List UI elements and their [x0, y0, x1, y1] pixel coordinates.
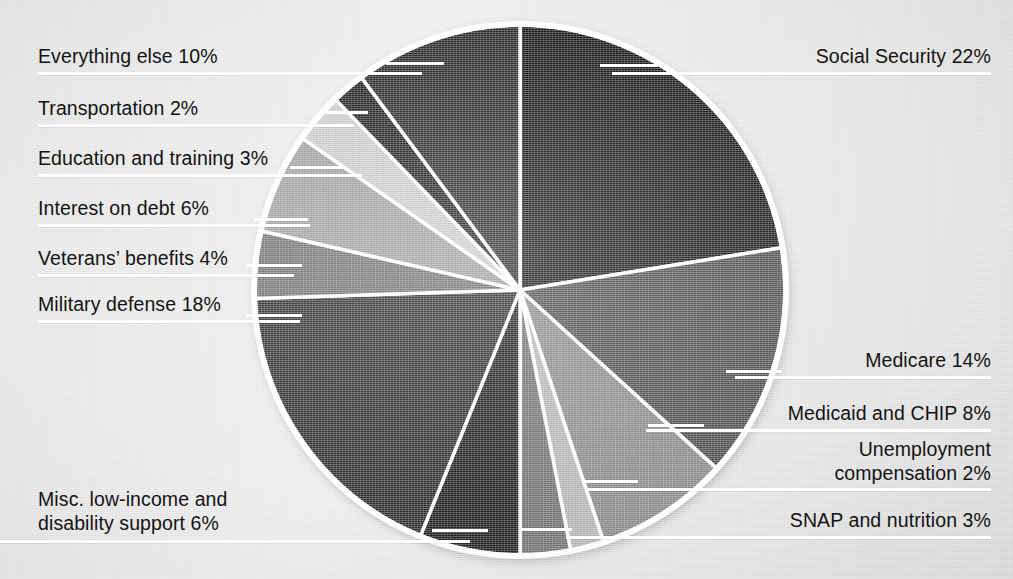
- label-misc-low-income-and-disability-support: Misc. low-income and disability support …: [38, 487, 227, 535]
- label-medicare: Medicare 14%: [571, 348, 991, 372]
- tick-social-security: [600, 64, 658, 67]
- tick-medicaid: [648, 424, 704, 427]
- tick-military: [246, 314, 302, 317]
- tick-misc: [432, 529, 488, 532]
- tick-snap: [520, 528, 572, 531]
- leader-misc-low-income-and-disability-support: [0, 540, 470, 543]
- leader-social-security: [612, 72, 991, 75]
- label-transportation: Transportation 2%: [38, 96, 198, 120]
- tick-everything-else: [386, 62, 444, 65]
- tick-education: [290, 166, 344, 169]
- tick-medicare: [726, 370, 782, 373]
- tick-unemployment: [582, 480, 638, 483]
- label-interest-on-debt: Interest on debt 6%: [38, 196, 209, 220]
- leader-transportation: [38, 124, 354, 127]
- pie-chart-figure: Everything else 10% Transportation 2% Ed…: [0, 0, 1013, 579]
- leader-education-and-training: [38, 174, 362, 177]
- leader-medicaid-and-chip: [646, 429, 991, 432]
- tick-veterans: [246, 264, 302, 267]
- label-education-and-training: Education and training 3%: [38, 146, 268, 170]
- label-everything-else: Everything else 10%: [38, 44, 218, 68]
- leader-military-defense: [38, 320, 300, 323]
- leader-interest-on-debt: [38, 224, 310, 227]
- leader-snap-and-nutrition: [566, 536, 991, 539]
- label-snap-and-nutrition: SNAP and nutrition 3%: [571, 508, 991, 532]
- leader-unemployment-compensation: [588, 488, 991, 491]
- leader-medicare: [735, 376, 991, 379]
- label-veterans-benefits: Veterans’ benefits 4%: [38, 246, 228, 270]
- label-unemployment-compensation: Unemployment compensation 2%: [551, 437, 991, 485]
- leader-everything-else: [38, 72, 422, 75]
- leader-veterans-benefits: [38, 274, 294, 277]
- label-medicaid-and-chip: Medicaid and CHIP 8%: [531, 401, 991, 425]
- label-military-defense: Military defense 18%: [38, 292, 221, 316]
- tick-transportation: [326, 111, 368, 114]
- tick-interest: [254, 218, 308, 221]
